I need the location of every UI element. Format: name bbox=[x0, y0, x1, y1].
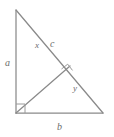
triangle-diagram-svg bbox=[0, 0, 114, 137]
hypotenuse-line bbox=[16, 10, 103, 113]
label-y: y bbox=[73, 84, 77, 93]
label-c: c bbox=[50, 39, 54, 49]
altitude-line bbox=[16, 66, 70, 113]
label-a: a bbox=[5, 58, 10, 68]
geometry-figure: a b c x y bbox=[0, 0, 114, 137]
label-b: b bbox=[57, 122, 62, 132]
label-x: x bbox=[35, 41, 39, 50]
